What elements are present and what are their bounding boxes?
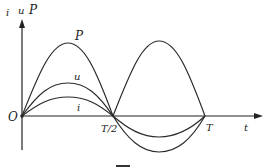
tick-label-half-period: T/2 bbox=[101, 123, 117, 134]
caption-partial-glyph bbox=[116, 165, 130, 167]
curve-label-P: P bbox=[74, 29, 84, 43]
y-label-u: u bbox=[18, 5, 24, 16]
y-label-P: P bbox=[28, 3, 38, 17]
curve-label-u: u bbox=[74, 71, 80, 82]
x-axis-arrow-icon bbox=[254, 113, 263, 119]
x-label-t: t bbox=[244, 122, 249, 133]
curve-P bbox=[22, 41, 205, 116]
curve-u bbox=[22, 83, 205, 152]
origin-label: O bbox=[8, 110, 18, 124]
y-label-i: i bbox=[6, 7, 9, 18]
tick-label-period: T bbox=[206, 122, 214, 133]
power-voltage-current-diagram: i u P O t T/2 T P u i bbox=[0, 0, 268, 168]
y-axis-arrow-icon bbox=[19, 19, 25, 28]
curve-label-i: i bbox=[77, 102, 80, 113]
